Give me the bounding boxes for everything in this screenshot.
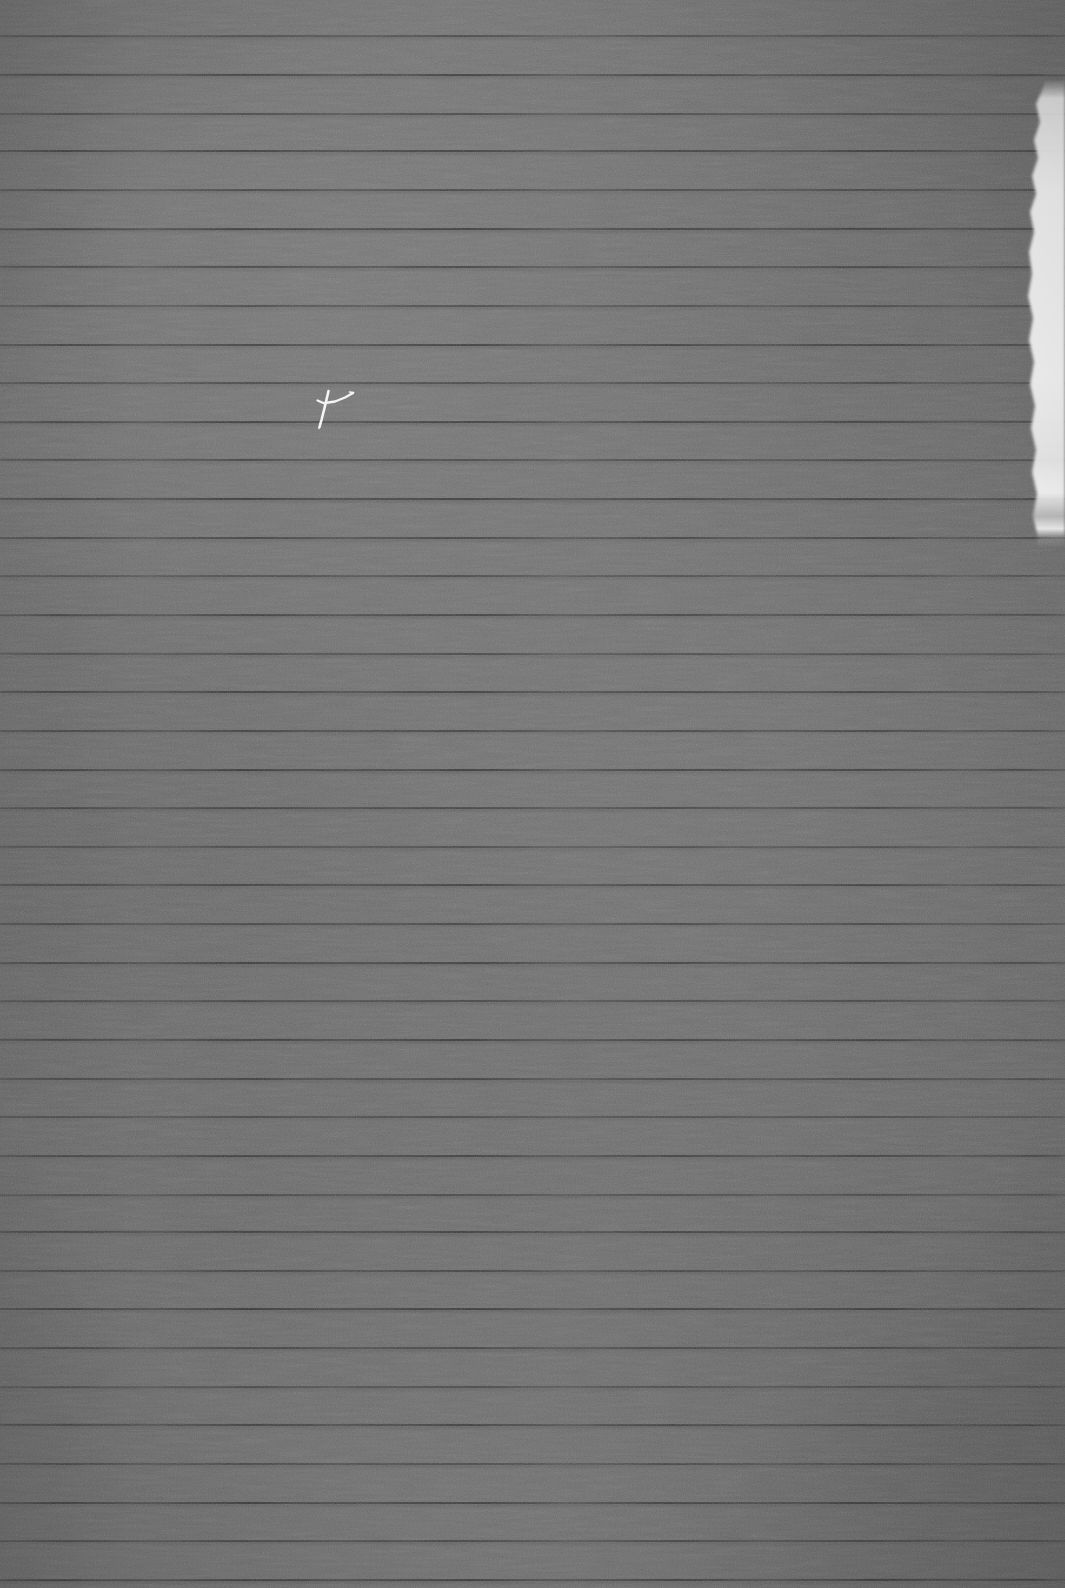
paper-scan-canvas: Blank gray ruled notebook paper bbox=[0, 0, 1065, 1588]
paper-shading-layer bbox=[0, 0, 1065, 1588]
